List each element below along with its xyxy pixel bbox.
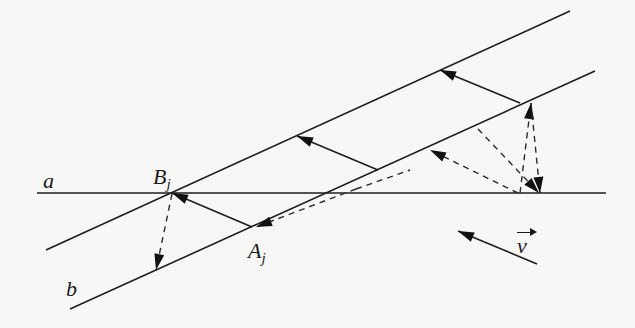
arrowhead-icon [458, 231, 475, 242]
arrowhead-icon [430, 150, 447, 162]
upper-slanted-line [46, 11, 570, 250]
arrowhead-icon [297, 136, 314, 147]
dashed-long-to-Aj [256, 189, 356, 227]
dashed-extension-along-b [356, 170, 410, 189]
dashed-Bj-down-to-b [154, 194, 172, 270]
line-b-slanted [70, 71, 595, 309]
diagram-canvas: a b Bj Aj v [0, 0, 635, 328]
label-point-Bj: Bj [153, 166, 171, 192]
label-line-a: a [43, 170, 54, 192]
arrowhead-icon [440, 70, 457, 81]
diagram-svg [0, 0, 635, 328]
label-vector-v: v [517, 235, 527, 257]
arrow-middle-reflection [297, 136, 378, 170]
arrowhead-icon [172, 193, 189, 204]
label-point-Aj: Aj [248, 240, 266, 266]
dashed-diag-to-P2 [478, 129, 539, 193]
lines-group [37, 11, 606, 309]
vector-arrow-icon [530, 228, 537, 236]
dashed-top-to-P2 [531, 103, 543, 193]
arrow-Aj-to-Bj [172, 193, 252, 227]
arrow-right-reflection [440, 70, 520, 103]
label-line-b: b [66, 278, 77, 300]
